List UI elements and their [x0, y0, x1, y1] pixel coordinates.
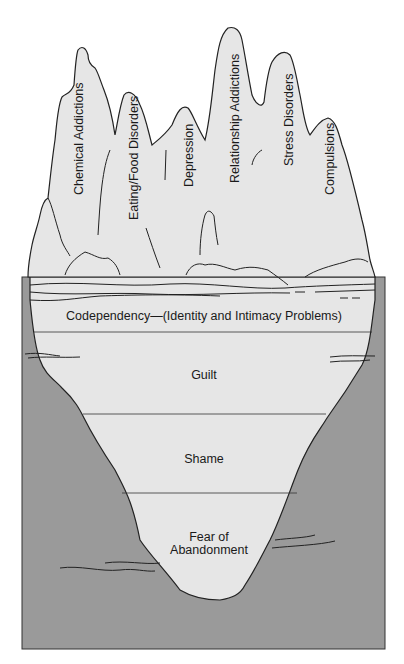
- layer-label-shame: Shame: [184, 452, 224, 466]
- peak-label-eating-food-disorders: Eating/Food Disorders: [127, 96, 141, 220]
- peak-label-depression: Depression: [182, 124, 196, 187]
- peak-label-compulsions: Compulsions: [323, 123, 337, 195]
- layer-label-fear-line2: Abandonment: [170, 543, 248, 557]
- layer-label-codependency: Codependency—(Identity and Intimacy Prob…: [66, 309, 342, 323]
- peak-label-stress-disorders: Stress Disorders: [282, 74, 296, 166]
- iceberg-diagram: Chemical Addictions Eating/Food Disorder…: [0, 0, 404, 664]
- layer-label-fear-line1: Fear of: [189, 530, 229, 544]
- peak-label-relationship-addictions: Relationship Addictions: [228, 54, 242, 183]
- peak-label-chemical-addictions: Chemical Addictions: [72, 82, 86, 195]
- layer-label-guilt: Guilt: [191, 368, 217, 382]
